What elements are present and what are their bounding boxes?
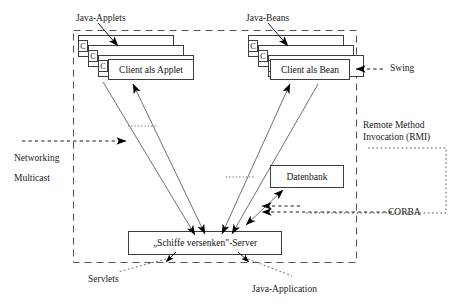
java-applets-text: Java-Applets [76,13,126,23]
servlets-text: Servlets [88,274,119,284]
arrow-bean-server-bidir-a [222,84,290,234]
label-rmi: Remote Method Invocation (RMI) [363,120,430,144]
arrow-servlets-to-server [166,252,176,262]
arrow-database-server-bidir [246,190,283,225]
rmi-text-line1: Remote Method [363,120,430,132]
swing-text: Swing [390,63,414,73]
label-servlets: Servlets [88,274,119,286]
connector-layer [0,0,451,306]
diagram-canvas: C C C Client als Applet C C C Client als… [0,0,451,306]
label-java-application: Java-Application [252,284,317,296]
label-java-applets: Java-Applets [76,13,126,25]
arrow-java-application-to-server [238,252,249,262]
corba-text: CORBA [388,207,421,217]
arrow-beans-label-to-stack [268,23,288,46]
arrow-applet-server-bidir-b [133,84,205,234]
arrow-applet-to-server-a [103,82,195,235]
label-java-beans: Java-Beans [246,13,289,25]
label-networking: Networking [14,153,59,165]
arrow-applets-label-to-stack [98,23,118,46]
arrow-bean-to-server-b [232,84,318,234]
label-multicast: Multicast [14,173,50,185]
rmi-text-line2: Invocation (RMI) [363,132,430,144]
leader-servlets [118,259,166,272]
label-corba: CORBA [388,207,421,219]
multicast-text: Multicast [14,173,50,183]
networking-text: Networking [14,153,59,163]
java-beans-text: Java-Beans [246,13,289,23]
label-swing: Swing [390,63,414,75]
java-application-text: Java-Application [252,284,317,294]
leader-java-application [248,259,292,276]
